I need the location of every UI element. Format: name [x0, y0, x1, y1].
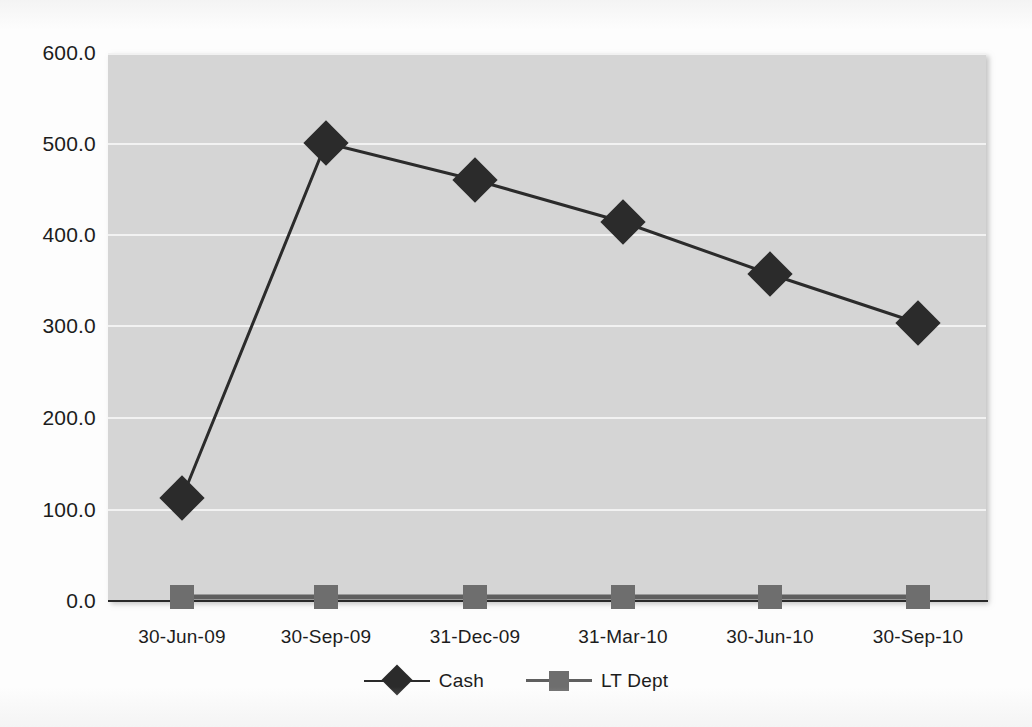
x-tick-label-1: 30-Sep-09 [281, 626, 372, 648]
y-tick-label-0: 0.0 [0, 589, 96, 613]
plot-area [108, 53, 986, 601]
legend-entry-cash[interactable]: Cash [364, 669, 484, 693]
gridline-600 [108, 53, 986, 55]
y-tick-label-100: 100.0 [0, 498, 96, 522]
y-tick-label-600: 600.0 [0, 41, 96, 65]
square-marker-icon [526, 669, 592, 693]
x-tick-label-4: 30-Jun-10 [726, 626, 813, 648]
diamond-marker-icon [364, 669, 430, 693]
x-tick-label-2: 31-Dec-09 [430, 626, 521, 648]
y-axis: 600.0 500.0 400.0 300.0 200.0 100.0 0.0 [0, 0, 96, 727]
chart-figure: 600.0 500.0 400.0 300.0 200.0 100.0 0.0 [0, 0, 1032, 727]
y-tick-label-300: 300.0 [0, 314, 96, 338]
x-tick-label-5: 30-Sep-10 [873, 626, 964, 648]
x-tick-label-0: 30-Jun-09 [138, 626, 225, 648]
gridline-100 [108, 509, 986, 511]
y-tick-label-400: 400.0 [0, 223, 96, 247]
legend-entry-lt-dept[interactable]: LT Dept [526, 669, 668, 693]
y-tick-label-500: 500.0 [0, 132, 96, 156]
gridline-300 [108, 325, 986, 327]
legend-label-lt-dept: LT Dept [601, 670, 668, 692]
chart-title [0, 0, 1032, 8]
gridline-400 [108, 234, 986, 236]
y-tick-label-200: 200.0 [0, 406, 96, 430]
x-axis-line [108, 600, 988, 602]
x-axis: 30-Jun-09 30-Sep-09 31-Dec-09 31-Mar-10 … [0, 626, 1032, 656]
gridline-500 [108, 143, 986, 145]
gridline-200 [108, 417, 986, 419]
x-tick-label-3: 31-Mar-10 [578, 626, 667, 648]
chart-legend: Cash LT Dept [0, 663, 1032, 699]
legend-label-cash: Cash [439, 670, 484, 692]
